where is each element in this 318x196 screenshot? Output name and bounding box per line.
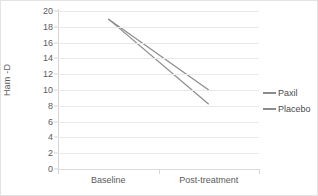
y-axis-tick-label: 2 xyxy=(27,148,53,158)
gridline xyxy=(58,11,259,12)
series-line-paxil xyxy=(108,19,209,90)
gridline xyxy=(58,137,259,138)
y-axis-tick-mark xyxy=(54,58,58,59)
y-axis-tick-label: 4 xyxy=(27,132,53,142)
y-axis-tick-label: 14 xyxy=(27,53,53,63)
y-axis-tick-mark xyxy=(54,74,58,75)
gridline xyxy=(58,90,259,91)
x-axis-tick-mark xyxy=(259,169,260,174)
y-axis-tick-label: 16 xyxy=(27,38,53,48)
x-axis-tick-mark xyxy=(159,169,160,174)
x-axis-tick-mark xyxy=(58,169,59,174)
y-axis-tick-mark xyxy=(54,105,58,106)
gridline xyxy=(58,106,259,107)
legend-line-swatch xyxy=(263,92,276,94)
y-axis-tick-label: 8 xyxy=(27,101,53,111)
y-axis-tick-mark xyxy=(54,90,58,91)
y-axis-tick-label: 12 xyxy=(27,69,53,79)
y-axis-tick-label: 18 xyxy=(27,22,53,32)
gridline xyxy=(58,58,259,59)
legend-line-swatch xyxy=(263,108,276,110)
legend-label: Paxil xyxy=(278,88,298,98)
line-chart: Ham -D 02468101214161820 BaselinePost-tr… xyxy=(0,0,318,196)
gridline xyxy=(58,43,259,44)
gridline xyxy=(58,74,259,75)
x-axis-tick-labels: BaselinePost-treatment xyxy=(58,175,259,191)
y-axis-tick-mark xyxy=(54,42,58,43)
y-axis-tick-label: 6 xyxy=(27,117,53,127)
y-axis-tick-label: 10 xyxy=(27,85,53,95)
chart-legend: PaxilPlacebo xyxy=(263,85,317,117)
gridline xyxy=(58,27,259,28)
legend-item-placebo[interactable]: Placebo xyxy=(263,101,317,117)
legend-item-paxil[interactable]: Paxil xyxy=(263,85,317,101)
legend-label: Placebo xyxy=(278,104,311,114)
y-axis-tick-label: 0 xyxy=(27,164,53,174)
y-axis-tick-mark xyxy=(54,26,58,27)
y-axis-tick-labels: 02468101214161820 xyxy=(27,11,53,169)
y-axis-tick-mark xyxy=(54,137,58,138)
gridline xyxy=(58,122,259,123)
y-axis-tick-mark xyxy=(54,153,58,154)
y-axis-title: Ham -D xyxy=(2,58,12,102)
y-axis-tick-label: 20 xyxy=(27,6,53,16)
x-axis-tick-label: Baseline xyxy=(91,175,126,185)
x-axis-tick-label: Post-treatment xyxy=(179,175,238,185)
y-axis-tick-mark xyxy=(54,11,58,12)
gridline xyxy=(58,153,259,154)
series-line-placebo xyxy=(108,19,209,104)
plot-area xyxy=(58,11,259,169)
y-axis-tick-mark xyxy=(54,121,58,122)
